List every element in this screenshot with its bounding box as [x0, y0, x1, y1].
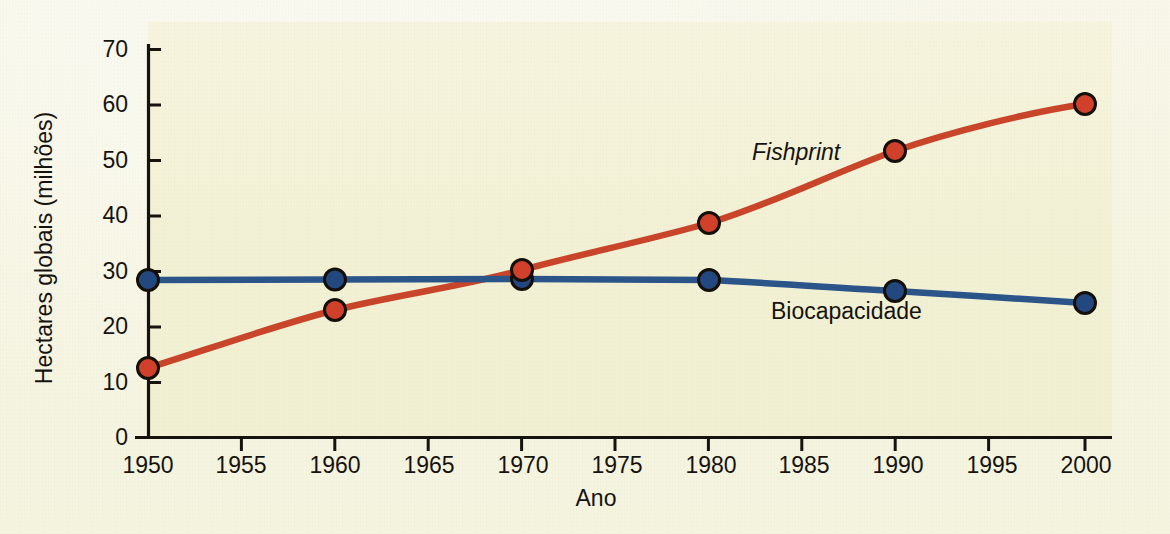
series-line-biocapacidade [148, 279, 1085, 303]
chart-figure: 70 60 50 40 30 20 10 0 1950 1955 1960 19… [0, 0, 1170, 534]
chart-canvas [0, 0, 1170, 534]
series-line-fishprint [148, 104, 1085, 368]
series-markers-biocapacidade [138, 269, 1096, 314]
